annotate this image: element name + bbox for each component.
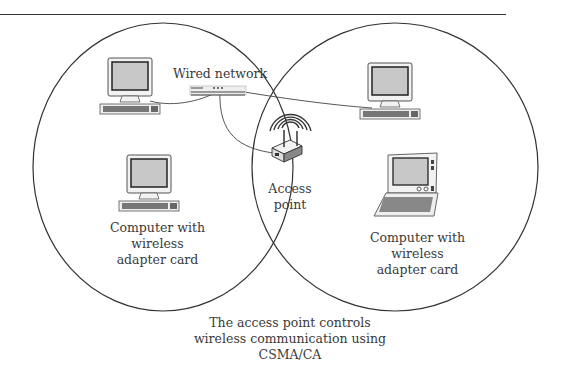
network-hub-icon: [190, 86, 246, 95]
wired-network-label: Wired network: [170, 66, 270, 82]
cable-hub-to-right: [232, 90, 372, 108]
desktop-computer-icon: [100, 58, 160, 114]
right-computer-label: Computer with wireless adapter card: [355, 230, 480, 278]
desktop-computer-icon: [360, 63, 420, 119]
diagram-caption: The access point controls wireless commu…: [180, 315, 400, 363]
access-point-label: Access point: [250, 181, 330, 213]
left-computer-label: Computer with wireless adapter card: [95, 220, 220, 268]
wireless-signal-icon: [270, 115, 311, 131]
desktop-computer-icon: [119, 155, 179, 211]
cable-hub-to-ap: [220, 90, 273, 153]
laptop-computer-icon: [374, 153, 438, 216]
